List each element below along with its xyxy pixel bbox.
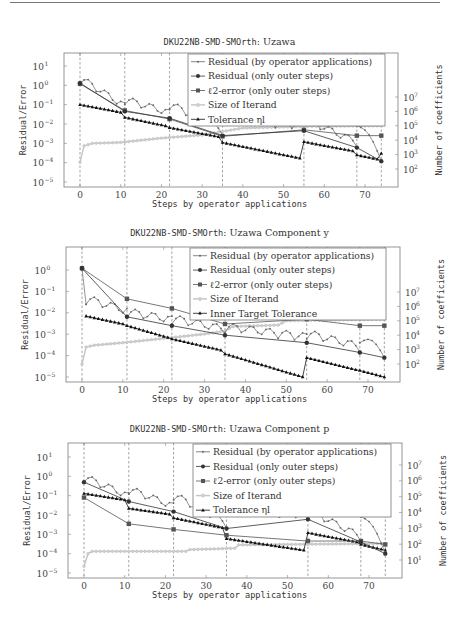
y-right-tick-label: 10: [407, 508, 419, 518]
residual-operator-marker: [372, 526, 374, 528]
y-right-tick-label: 10: [407, 476, 419, 486]
residual-operator-marker: [108, 484, 110, 486]
size-marker: [225, 547, 228, 550]
y-right-tick-exponent: 3: [418, 522, 422, 529]
size-marker: [209, 548, 212, 551]
y-tick-exponent: −3: [49, 528, 58, 535]
residual-operator-marker: [336, 521, 338, 523]
legend-label: Residual (only outer steps): [213, 461, 338, 472]
legend-marker: [202, 451, 204, 453]
size-marker: [95, 550, 98, 553]
y-tick-exponent: −4: [49, 547, 58, 554]
size-marker: [172, 550, 175, 553]
size-marker: [188, 548, 191, 551]
size-marker: [148, 550, 151, 553]
circle-marker: [359, 540, 363, 544]
size-marker: [115, 550, 118, 553]
size-marker: [241, 543, 244, 546]
y-tick-label: 10: [37, 530, 49, 540]
residual-operator-marker: [331, 518, 333, 520]
residual-operator-marker: [169, 502, 171, 504]
circle-marker: [224, 526, 228, 530]
size-marker: [294, 543, 297, 546]
residual-operator-marker: [99, 486, 101, 488]
size-marker: [127, 550, 130, 553]
residual-operator-marker: [112, 486, 114, 488]
size-marker: [131, 550, 134, 553]
residual-operator-marker: [364, 518, 366, 520]
residual-operator-marker: [156, 496, 158, 498]
residual-operator-marker: [323, 521, 325, 523]
size-marker: [144, 550, 147, 553]
square-marker: [383, 542, 387, 546]
size-marker: [327, 543, 330, 546]
size-marker: [197, 548, 200, 551]
y-right-tick-exponent: 4: [418, 506, 422, 513]
size-marker: [331, 543, 334, 546]
size-marker: [311, 543, 314, 546]
y-right-tick-label: 10: [407, 524, 419, 534]
residual-operator-marker: [136, 488, 138, 490]
square-marker: [306, 539, 310, 543]
y-right-tick-label: 10: [407, 492, 419, 502]
residual-operator-marker: [344, 530, 346, 532]
size-marker: [107, 550, 110, 553]
size-marker: [111, 550, 114, 553]
size-marker: [164, 550, 167, 553]
square-marker: [127, 522, 131, 526]
size-marker: [339, 543, 342, 546]
y-right-tick-exponent: 6: [418, 474, 422, 481]
residual-operator-marker: [165, 505, 167, 507]
size-marker: [315, 543, 318, 546]
size-marker: [250, 543, 253, 546]
size-marker: [176, 550, 179, 553]
size-marker: [237, 543, 240, 546]
size-marker: [99, 550, 102, 553]
circle-marker: [127, 499, 131, 503]
size-marker: [193, 548, 196, 551]
y-right-tick-label: 10: [407, 556, 419, 566]
size-marker: [290, 543, 293, 546]
x-axis-label: Steps by operator applications: [0, 590, 459, 600]
size-marker: [351, 542, 354, 545]
residual-operator-marker: [352, 528, 354, 530]
legend-marker: [201, 479, 205, 483]
y-tick-exponent: 0: [49, 470, 53, 477]
size-marker: [87, 552, 90, 555]
size-marker: [335, 543, 338, 546]
size-marker: [184, 550, 187, 553]
size-marker: [136, 550, 139, 553]
residual-operator-marker: [124, 491, 126, 493]
circle-marker: [82, 480, 86, 484]
legend-label: Tolerance ηl: [213, 504, 270, 515]
residual-operator-marker: [128, 493, 130, 495]
legend-marker: [201, 464, 205, 468]
residual-operator-marker: [356, 534, 358, 536]
y-tick-label: 10: [37, 453, 49, 463]
residual-operator-marker: [160, 502, 162, 504]
y-right-tick-exponent: 5: [418, 490, 422, 497]
square-marker: [82, 495, 86, 499]
size-marker: [160, 550, 163, 553]
size-marker: [319, 543, 322, 546]
residual-operator-marker: [120, 495, 122, 497]
residual-operator-marker: [132, 489, 134, 491]
size-marker: [347, 542, 350, 545]
residual-operator-marker: [222, 520, 224, 522]
size-marker: [229, 547, 232, 550]
size-marker: [217, 547, 220, 550]
size-marker: [343, 542, 346, 545]
residual-operator-marker: [140, 491, 142, 493]
y-tick-label: 10: [37, 549, 49, 559]
size-marker: [205, 548, 208, 551]
size-marker: [307, 543, 310, 546]
residual-operator-marker: [91, 476, 93, 478]
residual-operator-marker: [348, 527, 350, 529]
residual-operator-marker: [144, 498, 146, 500]
size-marker: [213, 548, 216, 551]
y-right-tick-exponent: 1: [418, 554, 422, 561]
size-marker: [168, 550, 171, 553]
square-marker: [171, 527, 175, 531]
residual-operator-marker: [173, 499, 175, 501]
y-tick-label: 10: [37, 569, 49, 579]
